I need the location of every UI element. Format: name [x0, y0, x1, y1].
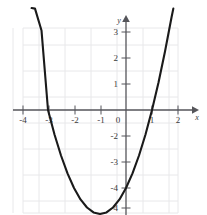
y-tick-label: -4	[111, 183, 119, 193]
y-tick-label: -2	[111, 131, 119, 141]
y-tick-label: -3	[111, 157, 119, 167]
x-tick-label: -4	[19, 115, 27, 125]
origin-label: 0	[116, 115, 121, 125]
figure-background	[0, 0, 207, 215]
y-axis-label: y	[116, 16, 121, 25]
y-tick-label: 1	[114, 79, 119, 89]
x-tick-label: -1	[97, 115, 105, 125]
graph-figure: -4 -3 -2 -1 1 2 0 3 2 1 -2 -3 -4 -4 y x	[0, 0, 207, 215]
x-axis-label: x	[194, 113, 199, 122]
coordinate-plane: -4 -3 -2 -1 1 2 0 3 2 1 -2 -3 -4 -4 y x	[0, 0, 207, 215]
x-tick-label: -2	[71, 115, 79, 125]
x-tick-label: 2	[176, 115, 181, 125]
y-tick-label: 2	[114, 53, 119, 63]
y-tick-label: 3	[114, 27, 119, 37]
